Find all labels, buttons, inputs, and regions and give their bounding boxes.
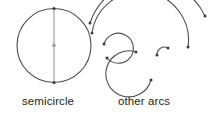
- outer-large-arc: [90, 0, 205, 23]
- upper-spiral-arc: [104, 33, 133, 63]
- second-large-arc-end-point: [187, 46, 190, 49]
- arc-diagram: semicircle other arcs: [0, 0, 214, 114]
- lower-large-spiral-arc-end-point: [150, 79, 153, 82]
- other-arcs-group: [89, 0, 207, 97]
- second-large-arc-start-point: [91, 32, 94, 35]
- lower-large-spiral-arc: [106, 51, 151, 97]
- diameter-top-point: [52, 7, 55, 10]
- outer-large-arc-start-point: [89, 22, 92, 25]
- inner-small-arc: [157, 47, 168, 55]
- diagram-canvas: [0, 0, 214, 114]
- inner-small-arc-start-point: [156, 54, 159, 57]
- lower-large-spiral-arc-start-point: [135, 51, 138, 54]
- inner-small-arc-end-point: [167, 47, 170, 50]
- semicircle-group: [17, 7, 91, 84]
- diameter-bottom-point: [52, 81, 55, 84]
- outer-large-arc-end-point: [204, 15, 207, 18]
- upper-spiral-arc-end-point: [106, 57, 109, 60]
- upper-spiral-arc-start-point: [103, 43, 106, 46]
- circle-center-point: [52, 44, 56, 48]
